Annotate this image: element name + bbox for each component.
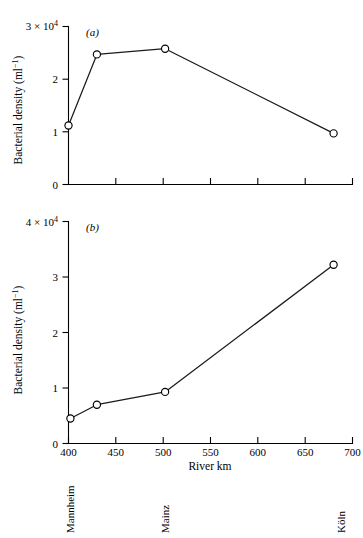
- panel-a-x-ticks: [116, 178, 353, 185]
- panel-a-y-label-1: 1: [53, 126, 59, 138]
- panel-a-data-markers: [65, 45, 337, 137]
- panel-b-y-axis-title: Bacterial density (ml−1): [11, 285, 25, 394]
- x-label-550: 550: [202, 446, 219, 458]
- city-label-mannheim: Mannheim: [64, 485, 76, 533]
- city-label-koln: Köln: [335, 511, 347, 534]
- panel-b-point-430: [93, 401, 100, 408]
- panel-b-x-ticks: [69, 437, 353, 444]
- panel-b-point-402: [67, 415, 74, 422]
- panel-b-y-label-3: 3: [53, 271, 59, 283]
- panel-a-y-label-2: 2: [53, 73, 59, 85]
- x-label-400: 400: [60, 446, 77, 458]
- panel-b-label: (b): [86, 221, 99, 234]
- panel-b-y-label-0: 0: [53, 438, 59, 450]
- panel-a: 3 × 104 2 1 0 (a) Bacterial density (ml−…: [11, 19, 353, 191]
- x-label-650: 650: [297, 446, 314, 458]
- panel-b-y-ticks: [63, 222, 69, 444]
- city-label-mainz: Mainz: [159, 505, 171, 533]
- chart-svg: 3 × 104 2 1 0 (a) Bacterial density (ml−…: [0, 0, 363, 538]
- panel-b-y-label-2: 2: [53, 327, 59, 339]
- panel-a-y-top-label: 3 × 104: [26, 19, 58, 32]
- x-axis-title: River km: [188, 460, 231, 472]
- panel-b-x-tick-labels: 400 450 500 550 600 650 700: [60, 446, 361, 458]
- panel-a-label: (a): [86, 26, 99, 39]
- panel-b-data-markers: [67, 261, 337, 422]
- city-labels: Mannheim Mainz Köln: [64, 485, 347, 533]
- panel-a-data-line: [69, 49, 334, 134]
- figure-container: 3 × 104 2 1 0 (a) Bacterial density (ml−…: [0, 0, 363, 538]
- panel-b-point-502: [162, 388, 169, 395]
- x-label-600: 600: [250, 446, 267, 458]
- panel-a-point-502: [162, 45, 169, 52]
- panel-b-point-680: [330, 261, 337, 268]
- panel-a-point-680: [330, 130, 337, 137]
- panel-a-point-400: [65, 122, 72, 129]
- panel-b-y-top-label: 4 × 104: [26, 215, 58, 228]
- x-label-450: 450: [108, 446, 125, 458]
- x-label-700: 700: [344, 446, 361, 458]
- panel-b-data-line: [70, 265, 333, 419]
- panel-a-y-axis-title: Bacterial density (ml−1): [11, 55, 25, 164]
- panel-a-y-label-0: 0: [53, 179, 59, 191]
- panel-b-y-label-1: 1: [53, 382, 59, 394]
- panel-a-y-ticks: [63, 27, 69, 185]
- panel-b: 4 × 104 3 2 1 0 400 450 500 550 600: [11, 215, 361, 473]
- x-label-500: 500: [155, 446, 172, 458]
- panel-a-point-430: [93, 51, 100, 58]
